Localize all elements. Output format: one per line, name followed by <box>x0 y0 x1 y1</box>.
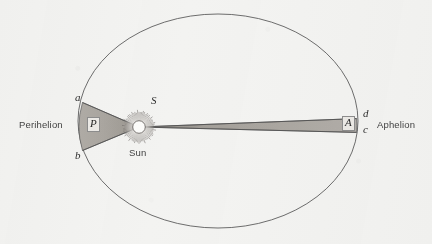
kepler-second-law-figure: Perihelion Aphelion Sun S a b d c P A <box>0 0 432 244</box>
sun-label: Sun <box>129 148 146 158</box>
sun-point-label-s: S <box>151 95 157 106</box>
point-label-b: b <box>75 150 81 161</box>
area-label-a: A <box>342 116 355 131</box>
aphelion-label: Aphelion <box>377 120 415 130</box>
point-label-a: a <box>75 92 81 103</box>
diagram-canvas <box>0 0 432 244</box>
perihelion-label: Perihelion <box>19 120 63 130</box>
point-label-c: c <box>363 124 368 135</box>
area-label-p: P <box>87 117 100 132</box>
sun-disc-icon <box>133 121 146 134</box>
point-label-d: d <box>363 108 369 119</box>
